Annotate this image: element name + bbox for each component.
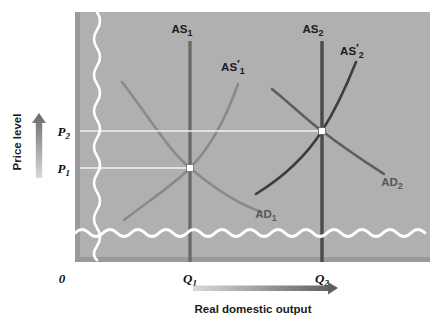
y-axis-title: Price level <box>11 114 23 171</box>
x-axis-spine <box>75 257 430 262</box>
economics-diagram: AS1 AS′1 AD1 AS2 AS′2 AD2 P2 P1 Q1 Q2 0 … <box>0 0 446 321</box>
x-axis-title: Real domestic output <box>195 303 312 315</box>
plot-area <box>75 12 430 262</box>
origin-label: 0 <box>59 271 66 286</box>
equilibrium-point-1 <box>187 165 194 172</box>
equilibrium-point-2 <box>319 128 326 135</box>
y-axis-spine <box>75 12 80 262</box>
